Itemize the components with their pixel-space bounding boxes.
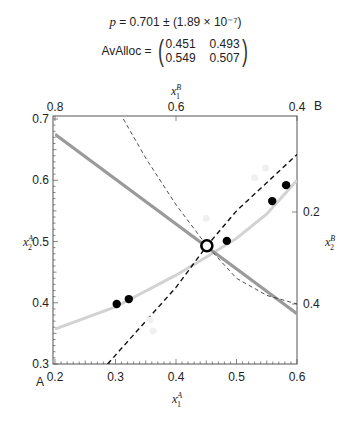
y-tick-label: 0.4 xyxy=(32,296,49,310)
x-tick-label: 0.2 xyxy=(47,370,64,384)
contract-curve-line xyxy=(55,180,297,329)
faint-point xyxy=(251,174,258,181)
y-axis-label: xA2 xyxy=(22,234,33,252)
faint-point xyxy=(150,327,157,334)
allocation-point xyxy=(282,181,290,189)
y-tick-label: 0.3 xyxy=(32,357,49,371)
x-tick-label: 0.3 xyxy=(107,370,124,384)
top-axis-label: xB1 xyxy=(170,83,181,101)
allocation-point xyxy=(268,197,276,205)
allocation-point xyxy=(223,237,231,245)
x-tick-label: 0.6 xyxy=(289,370,306,384)
average-allocation-point xyxy=(201,240,212,251)
right-axis-label: xB2 xyxy=(324,234,335,252)
x-tick-label: 0.5 xyxy=(228,370,245,384)
x-tick-label: 0.4 xyxy=(168,370,185,384)
allocation-point xyxy=(125,295,133,303)
corner-label-b: B xyxy=(314,99,322,113)
allocation-point xyxy=(113,300,121,308)
y-tick-label: 0.7 xyxy=(32,112,49,126)
edgeworth-box-chart: 0.20.30.40.50.60.30.40.50.60.70.80.60.40… xyxy=(0,0,351,423)
plot-area xyxy=(55,119,297,364)
right-tick-label: 0.4 xyxy=(303,297,320,311)
plot-frame xyxy=(53,116,297,364)
faint-point xyxy=(146,316,153,323)
faint-point xyxy=(262,165,269,172)
corner-label-a: A xyxy=(36,375,44,389)
faint-point xyxy=(203,215,210,222)
top-tick-label: 0.8 xyxy=(47,100,64,114)
top-tick-label: 0.4 xyxy=(289,100,306,114)
y-tick-label: 0.5 xyxy=(32,235,49,249)
top-tick-label: 0.6 xyxy=(168,100,185,114)
right-tick-label: 0.2 xyxy=(303,205,320,219)
y-tick-label: 0.6 xyxy=(32,173,49,187)
x-axis-label: xA1 xyxy=(171,391,182,409)
